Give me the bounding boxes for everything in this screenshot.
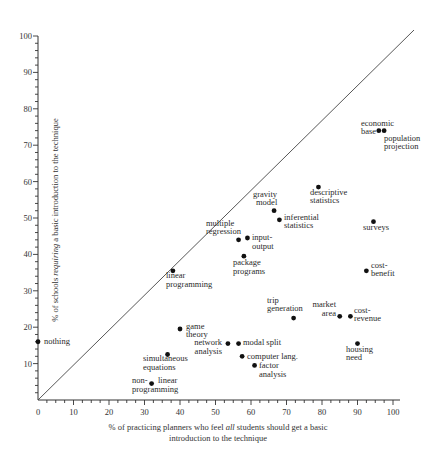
y-tick-label: 80 xyxy=(24,104,33,114)
label-inferential-statistics: statistics xyxy=(284,220,313,230)
label-nothing: nothing xyxy=(44,336,71,346)
label-multiple-regression: regression xyxy=(206,226,242,236)
data-point-input-output xyxy=(245,236,250,241)
data-point-economic-base xyxy=(376,128,381,133)
y-tick-label: 30 xyxy=(24,286,33,296)
y-tick-label: 100 xyxy=(19,31,32,41)
x-tick-label: 0 xyxy=(36,407,40,417)
data-point-game-theory xyxy=(178,327,183,332)
label-non-linear-programming: programming xyxy=(132,384,179,394)
data-point-multiple-regression xyxy=(236,237,241,242)
x-tick-label: 40 xyxy=(176,407,185,417)
y-tick-label: 60 xyxy=(24,177,33,187)
label-package-programs: programs xyxy=(233,266,265,276)
data-point-network-analysis xyxy=(226,341,231,346)
y-tick-label: 40 xyxy=(24,249,33,259)
y-tick-label: 50 xyxy=(24,213,33,223)
y-tick-label: 90 xyxy=(24,67,33,77)
data-point-trip-generation xyxy=(291,316,296,321)
y-tick-label: 10 xyxy=(24,359,33,369)
data-point-nothing xyxy=(36,339,41,344)
label-gravity-model: model xyxy=(256,197,278,207)
label-housing-need: need xyxy=(346,352,363,362)
label-factor-analysis: analysis xyxy=(259,369,286,379)
y-tick-label: 70 xyxy=(24,140,33,150)
label-cost-revenue: revenue xyxy=(354,313,381,323)
data-point-computer-lang- xyxy=(240,354,245,359)
label-network-analysis: analysis xyxy=(195,346,222,356)
y-axis-ticks: 102030405060708090100 xyxy=(19,31,38,393)
label-descriptive-statistics: statistics xyxy=(310,195,339,205)
data-point-modal-split xyxy=(236,341,241,346)
x-axis-ticks: 0102030405060708090100 xyxy=(36,400,400,417)
x-tick-label: 30 xyxy=(140,407,149,417)
label-modal-split: modal split xyxy=(243,337,282,347)
point-labels: nothing non- linear programming simultan… xyxy=(44,118,421,394)
x-tick-label: 10 xyxy=(69,407,78,417)
label-market-area: area xyxy=(322,308,336,318)
x-tick-label: 60 xyxy=(247,407,256,417)
data-point-gravity-model xyxy=(272,208,277,213)
label-linear-programming: programming xyxy=(166,279,213,289)
label-input-output: output xyxy=(252,241,274,251)
y-tick-label: 20 xyxy=(24,322,33,332)
label-cost-benefit: benefit xyxy=(371,268,395,278)
scatter-chart: 102030405060708090100 010203040506070809… xyxy=(0,0,440,453)
x-tick-label: 90 xyxy=(353,407,362,417)
x-tick-label: 50 xyxy=(211,407,220,417)
y-axis-title: % of schools requiring a basic introduct… xyxy=(50,118,60,322)
data-point-cost-revenue xyxy=(348,314,353,319)
x-tick-label: 20 xyxy=(105,407,114,417)
x-axis-title-line2: introduction to the technique xyxy=(169,433,267,443)
x-tick-label: 80 xyxy=(318,407,327,417)
label-trip-generation: generation xyxy=(267,303,304,313)
x-axis-title: % of practicing planners who feel all st… xyxy=(109,422,328,432)
x-tick-label: 100 xyxy=(387,407,400,417)
label-surveys: surveys xyxy=(363,222,389,232)
data-point-inferential-statistics xyxy=(277,217,282,222)
data-point-market-area xyxy=(337,314,342,319)
label-simultaneous-equations: equations xyxy=(143,362,176,372)
x-tick-label: 70 xyxy=(282,407,291,417)
label-economic-base: base xyxy=(361,126,376,136)
label-population-projection: projection xyxy=(384,141,419,151)
data-point-cost-benefit xyxy=(364,268,369,273)
data-point-factor-analysis xyxy=(252,363,257,368)
